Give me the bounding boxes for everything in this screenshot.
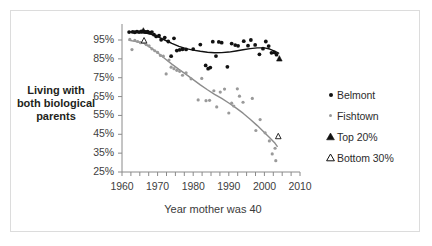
circle-marker-icon xyxy=(324,93,337,97)
circle-icon xyxy=(329,93,333,97)
y-tick-label: 25% xyxy=(14,165,123,177)
data-point-fishtown xyxy=(264,131,267,134)
data-point-fishtown xyxy=(215,105,218,108)
data-point-fishtown xyxy=(273,147,276,150)
data-point-belmont xyxy=(264,40,268,44)
data-point-fishtown xyxy=(178,70,181,73)
data-point-fishtown xyxy=(212,89,215,92)
y-tick-label: 45% xyxy=(14,127,123,139)
data-point-fishtown xyxy=(130,48,133,51)
circle-marker-icon xyxy=(324,114,337,118)
data-point-fishtown xyxy=(189,77,192,80)
data-point-fishtown xyxy=(259,118,262,121)
data-point-fishtown xyxy=(159,54,162,57)
data-point-belmont xyxy=(127,30,131,34)
data-point-fishtown xyxy=(208,99,211,102)
data-point-fishtown xyxy=(200,77,203,80)
data-point-belmont xyxy=(166,40,170,44)
chart-legend: BelmontFishtownTop 20%Bottom 30% xyxy=(324,84,424,168)
data-point-fishtown xyxy=(251,97,254,100)
data-point-fishtown xyxy=(150,47,153,50)
data-point-belmont xyxy=(253,43,257,47)
data-point-belmont xyxy=(204,64,208,68)
data-point-belmont xyxy=(157,34,161,38)
y-tick-label: 75% xyxy=(14,71,123,83)
marker-bottom-30 xyxy=(141,38,147,43)
data-point-belmont xyxy=(261,47,265,51)
data-point-fishtown xyxy=(236,87,239,90)
legend-label: Bottom 30% xyxy=(337,152,394,164)
data-point-fishtown xyxy=(128,38,131,41)
legend-item-top-20[interactable]: Top 20% xyxy=(324,126,424,147)
data-point-belmont xyxy=(249,38,253,42)
triangle-icon xyxy=(326,153,335,162)
data-point-fishtown xyxy=(204,99,207,102)
data-point-fishtown xyxy=(232,104,235,107)
x-tick-label: 2010 xyxy=(280,180,320,192)
data-point-fishtown xyxy=(219,90,222,93)
x-axis-title: Year mother was 40 xyxy=(128,203,298,215)
data-point-belmont xyxy=(225,65,229,69)
data-point-belmont xyxy=(191,47,195,51)
data-point-belmont xyxy=(214,54,218,58)
data-point-belmont xyxy=(230,42,234,46)
data-point-fishtown xyxy=(145,43,148,46)
data-point-belmont xyxy=(236,44,240,48)
x-tick-label: 1990 xyxy=(209,180,249,192)
data-point-fishtown xyxy=(223,87,226,90)
legend-item-bottom-30[interactable]: Bottom 30% xyxy=(324,147,424,168)
open-triangle-marker-icon xyxy=(324,153,337,162)
data-point-fishtown xyxy=(162,55,165,58)
data-point-belmont xyxy=(267,44,271,48)
circle-icon xyxy=(329,114,333,118)
data-point-fishtown xyxy=(153,49,156,52)
data-point-belmont xyxy=(169,54,173,58)
y-tick-label: 95% xyxy=(14,33,123,45)
data-point-belmont xyxy=(184,48,188,52)
data-point-fishtown xyxy=(227,111,230,114)
marker-top-20 xyxy=(277,56,283,61)
legend-label: Belmont xyxy=(337,89,375,101)
data-point-fishtown xyxy=(133,39,136,42)
marker-bottom-30 xyxy=(275,133,281,138)
data-point-fishtown xyxy=(268,139,271,142)
data-point-fishtown xyxy=(156,51,159,54)
y-tick-label: 85% xyxy=(14,52,123,64)
chart-figure: Living with both biological parents 25%3… xyxy=(0,0,432,246)
x-tick-label: 1960 xyxy=(102,180,142,192)
data-point-belmont xyxy=(181,47,185,51)
data-point-belmont xyxy=(246,44,250,48)
data-point-belmont xyxy=(208,66,212,70)
plot-area xyxy=(122,24,300,172)
x-tick-label: 2000 xyxy=(244,180,284,192)
legend-item-belmont[interactable]: Belmont xyxy=(324,84,424,105)
data-point-belmont xyxy=(198,43,202,47)
data-point-belmont xyxy=(211,40,215,44)
legend-label: Top 20% xyxy=(337,131,378,143)
y-tick-label: 35% xyxy=(14,146,123,158)
data-point-fishtown xyxy=(167,58,170,61)
data-point-fishtown xyxy=(254,129,257,132)
legend-item-fishtown[interactable]: Fishtown xyxy=(324,105,424,126)
data-point-belmont xyxy=(163,36,167,40)
triangle-marker-icon xyxy=(324,132,337,141)
data-point-fishtown xyxy=(172,67,175,70)
data-point-fishtown xyxy=(184,71,187,74)
data-point-fishtown xyxy=(170,66,173,69)
data-point-belmont xyxy=(275,53,279,57)
x-tick-label: 1970 xyxy=(138,180,178,192)
x-tick-label: 1980 xyxy=(173,180,213,192)
data-point-fishtown xyxy=(147,44,150,47)
data-point-fishtown xyxy=(271,152,274,155)
data-point-belmont xyxy=(159,38,163,42)
data-point-fishtown xyxy=(175,69,178,72)
data-point-fishtown xyxy=(241,101,244,104)
data-point-fishtown xyxy=(181,74,184,77)
data-point-fishtown xyxy=(197,98,200,101)
data-point-belmont xyxy=(258,52,262,56)
data-point-belmont xyxy=(172,36,176,40)
data-point-fishtown xyxy=(165,72,168,75)
data-point-fishtown xyxy=(238,95,241,98)
plot-canvas xyxy=(122,24,300,176)
data-point-fishtown xyxy=(230,102,233,105)
